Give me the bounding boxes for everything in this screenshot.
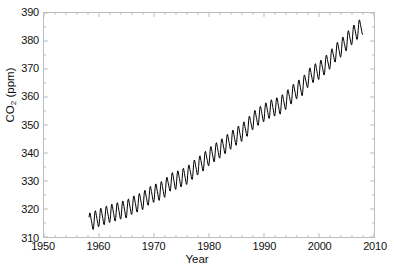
plot-frame xyxy=(43,12,375,238)
axis-tick-marks xyxy=(44,13,374,237)
y-axis-title-subscript: 2 xyxy=(9,101,18,105)
x-tick-label: 1980 xyxy=(189,241,229,252)
x-tick-label: 1960 xyxy=(78,241,118,252)
y-tick-label: 320 xyxy=(14,204,39,215)
y-tick-label: 340 xyxy=(14,148,39,159)
y-axis-title-suffix: (ppm) xyxy=(4,68,16,101)
y-tick-label: 380 xyxy=(14,35,39,46)
x-tick-label: 1970 xyxy=(134,241,174,252)
x-tick-label: 1990 xyxy=(244,241,284,252)
co2-chart-figure: 310320330340350360370380390 195019601970… xyxy=(0,0,394,274)
x-tick-label: 2000 xyxy=(300,241,340,252)
y-tick-label: 330 xyxy=(14,176,39,187)
x-tick-label: 1950 xyxy=(23,241,63,252)
plot-area xyxy=(44,13,374,237)
keeling-curve-line xyxy=(44,13,374,237)
x-axis-title: Year xyxy=(0,253,394,265)
co2-series-path xyxy=(89,20,363,230)
y-axis-title: CO2 (ppm) xyxy=(4,58,18,132)
y-tick-label: 390 xyxy=(14,7,39,18)
y-axis-title-prefix: CO xyxy=(4,105,16,122)
x-tick-label: 2010 xyxy=(355,241,394,252)
